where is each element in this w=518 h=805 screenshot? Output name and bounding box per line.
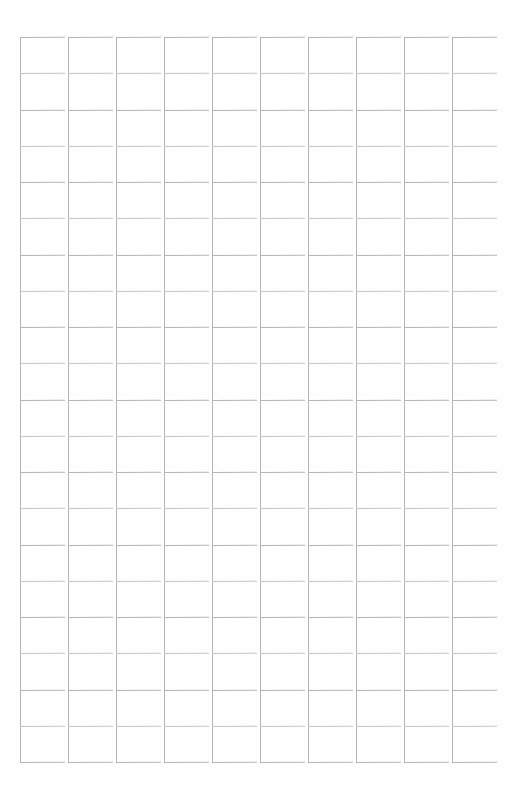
grid-cell[interactable]: [308, 37, 351, 73]
grid-cell[interactable]: [20, 327, 63, 363]
grid-cell[interactable]: [212, 255, 255, 291]
grid-cell[interactable]: [356, 218, 399, 254]
grid-cell[interactable]: [68, 690, 111, 726]
grid-cell[interactable]: [260, 255, 303, 291]
grid-cell[interactable]: [68, 73, 111, 109]
grid-cell[interactable]: [260, 726, 303, 762]
grid-cell[interactable]: [20, 255, 63, 291]
grid-cell[interactable]: [260, 545, 303, 581]
grid-cell[interactable]: [356, 472, 399, 508]
grid-cell[interactable]: [68, 472, 111, 508]
grid-cell[interactable]: [356, 255, 399, 291]
grid-cell[interactable]: [260, 110, 303, 146]
grid-cell[interactable]: [356, 327, 399, 363]
grid-cell[interactable]: [212, 508, 255, 544]
grid-cell[interactable]: [164, 508, 207, 544]
grid-cell[interactable]: [260, 73, 303, 109]
grid-cell[interactable]: [164, 182, 207, 218]
grid-cell[interactable]: [356, 291, 399, 327]
grid-cell[interactable]: [20, 110, 63, 146]
grid-cell[interactable]: [212, 690, 255, 726]
grid-cell[interactable]: [452, 581, 495, 617]
grid-cell[interactable]: [452, 182, 495, 218]
grid-cell[interactable]: [452, 653, 495, 689]
grid-cell[interactable]: [452, 690, 495, 726]
grid-cell[interactable]: [452, 327, 495, 363]
grid-cell[interactable]: [164, 37, 207, 73]
grid-cell[interactable]: [116, 363, 159, 399]
grid-cell[interactable]: [356, 545, 399, 581]
grid-cell[interactable]: [452, 363, 495, 399]
grid-cell[interactable]: [164, 218, 207, 254]
grid-cell[interactable]: [164, 726, 207, 762]
grid-cell[interactable]: [356, 508, 399, 544]
grid-cell[interactable]: [404, 726, 447, 762]
grid-cell[interactable]: [20, 726, 63, 762]
grid-cell[interactable]: [452, 400, 495, 436]
grid-cell[interactable]: [452, 146, 495, 182]
grid-cell[interactable]: [68, 255, 111, 291]
grid-cell[interactable]: [404, 327, 447, 363]
grid-cell[interactable]: [404, 581, 447, 617]
grid-cell[interactable]: [260, 508, 303, 544]
grid-cell[interactable]: [164, 327, 207, 363]
grid-cell[interactable]: [260, 182, 303, 218]
grid-cell[interactable]: [116, 37, 159, 73]
grid-cell[interactable]: [260, 327, 303, 363]
grid-cell[interactable]: [212, 400, 255, 436]
grid-cell[interactable]: [356, 110, 399, 146]
grid-cell[interactable]: [356, 690, 399, 726]
grid-cell[interactable]: [308, 218, 351, 254]
grid-cell[interactable]: [308, 363, 351, 399]
grid-cell[interactable]: [404, 436, 447, 472]
grid-cell[interactable]: [452, 617, 495, 653]
grid-cell[interactable]: [20, 37, 63, 73]
grid-cell[interactable]: [404, 255, 447, 291]
grid-cell[interactable]: [356, 726, 399, 762]
grid-cell[interactable]: [116, 545, 159, 581]
grid-cell[interactable]: [404, 617, 447, 653]
grid-cell[interactable]: [452, 218, 495, 254]
grid-cell[interactable]: [260, 436, 303, 472]
grid-cell[interactable]: [116, 73, 159, 109]
grid-cell[interactable]: [20, 653, 63, 689]
grid-cell[interactable]: [68, 182, 111, 218]
grid-cell[interactable]: [212, 73, 255, 109]
grid-cell[interactable]: [404, 545, 447, 581]
grid-cell[interactable]: [68, 327, 111, 363]
grid-cell[interactable]: [116, 581, 159, 617]
grid-cell[interactable]: [212, 653, 255, 689]
grid-cell[interactable]: [260, 363, 303, 399]
grid-cell[interactable]: [404, 146, 447, 182]
grid-cell[interactable]: [260, 472, 303, 508]
grid-cell[interactable]: [68, 617, 111, 653]
grid-cell[interactable]: [404, 37, 447, 73]
grid-cell[interactable]: [20, 146, 63, 182]
grid-cell[interactable]: [68, 581, 111, 617]
grid-cell[interactable]: [20, 472, 63, 508]
grid-cell[interactable]: [212, 327, 255, 363]
grid-cell[interactable]: [20, 400, 63, 436]
grid-cell[interactable]: [20, 690, 63, 726]
grid-cell[interactable]: [308, 73, 351, 109]
grid-cell[interactable]: [20, 545, 63, 581]
grid-cell[interactable]: [68, 400, 111, 436]
grid-cell[interactable]: [404, 472, 447, 508]
grid-cell[interactable]: [116, 110, 159, 146]
grid-cell[interactable]: [404, 110, 447, 146]
grid-cell[interactable]: [452, 73, 495, 109]
grid-cell[interactable]: [68, 653, 111, 689]
grid-cell[interactable]: [356, 400, 399, 436]
grid-cell[interactable]: [20, 617, 63, 653]
grid-cell[interactable]: [116, 255, 159, 291]
grid-cell[interactable]: [404, 508, 447, 544]
grid-cell[interactable]: [68, 37, 111, 73]
grid-cell[interactable]: [404, 182, 447, 218]
grid-cell[interactable]: [68, 218, 111, 254]
grid-cell[interactable]: [308, 291, 351, 327]
grid-cell[interactable]: [20, 508, 63, 544]
grid-cell[interactable]: [164, 436, 207, 472]
grid-cell[interactable]: [308, 400, 351, 436]
grid-cell[interactable]: [308, 182, 351, 218]
grid-cell[interactable]: [404, 400, 447, 436]
